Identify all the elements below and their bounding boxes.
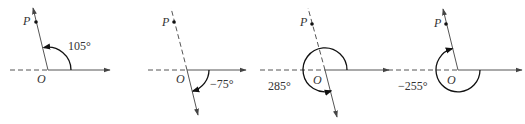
- terminal-side-ray: [443, 9, 458, 70]
- point-p-label: P: [299, 15, 308, 29]
- angle-diagrams-figure: P O 105° P O −75° P O 285° P O −255°: [0, 0, 525, 124]
- angle-label: 285°: [268, 79, 291, 93]
- point-p-label: P: [22, 14, 31, 28]
- diagram-105: P O 105°: [10, 8, 110, 86]
- angle-label: −75°: [210, 77, 234, 91]
- point-p-dot: [172, 20, 176, 24]
- point-p-dot: [34, 20, 38, 24]
- angle-arc: [193, 70, 209, 91]
- point-p-dot: [310, 22, 314, 26]
- terminal-side-ray: [325, 70, 337, 117]
- point-p-label: P: [433, 16, 442, 30]
- terminal-side-ray: [187, 70, 198, 115]
- origin-label: O: [176, 72, 185, 86]
- point-p-dot: [444, 22, 448, 26]
- dashed-extension-up: [171, 8, 187, 70]
- origin-label: O: [37, 72, 46, 86]
- angle-label: −255°: [398, 79, 428, 93]
- diagram-neg255: P O −255°: [388, 9, 522, 93]
- angle-arc: [44, 47, 71, 70]
- origin-label: O: [447, 73, 456, 87]
- diagram-neg75: P O −75°: [148, 8, 246, 115]
- origin-label: O: [313, 73, 322, 87]
- angle-label: 105°: [68, 39, 91, 53]
- dashed-extension-up: [308, 8, 325, 70]
- point-p-label: P: [161, 15, 170, 29]
- terminal-side-ray: [33, 8, 48, 70]
- diagram-285: P O 285°: [260, 8, 389, 117]
